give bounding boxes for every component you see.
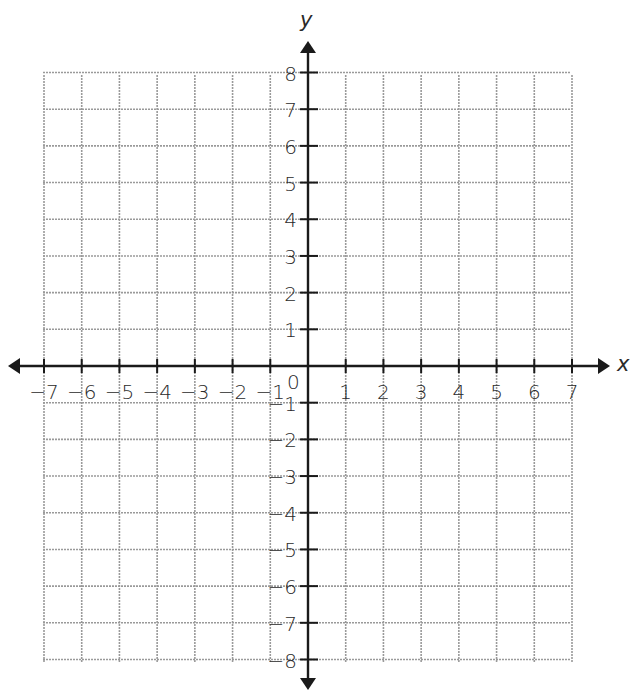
y-tick-label: 6 (284, 135, 297, 159)
x-tick-label: −5 (105, 380, 134, 404)
x-tick-label: −3 (180, 380, 209, 404)
y-tick-label: 3 (284, 245, 297, 269)
y-tick-label: 7 (284, 98, 297, 122)
y-tick-label: −5 (268, 538, 297, 562)
x-tick-label: 6 (528, 380, 541, 404)
x-tick-label: 1 (339, 380, 352, 404)
y-tick-label: −2 (268, 428, 297, 452)
x-tick-label: −7 (29, 380, 58, 404)
x-tick-label: −4 (142, 380, 171, 404)
coordinate-plane: −7−6−5−4−3−2−11234567 87654321−1−2−3−4−5… (0, 0, 632, 692)
x-axis-label: x (616, 352, 630, 376)
origin-label: 0 (287, 370, 300, 394)
x-tick-label: 7 (566, 380, 579, 404)
y-tick-label: 5 (284, 172, 297, 196)
y-axis-up-arrow-icon (300, 41, 316, 53)
x-axis-left-arrow-icon (8, 358, 20, 374)
y-tick-label: 4 (284, 208, 297, 232)
x-tick-label: 3 (415, 380, 428, 404)
x-tick-label: 2 (377, 380, 390, 404)
axes (8, 41, 610, 690)
y-tick-label: −6 (268, 575, 297, 599)
y-tick-label: −1 (268, 392, 297, 416)
y-tick-label: −4 (268, 502, 297, 526)
y-tick-label: 8 (284, 62, 297, 86)
y-axis-down-arrow-icon (300, 678, 316, 690)
x-axis-right-arrow-icon (598, 358, 610, 374)
x-tick-label: 4 (452, 380, 465, 404)
y-tick-label: 1 (284, 318, 297, 342)
y-tick-label: −3 (268, 465, 297, 489)
x-tick-label: 5 (490, 380, 503, 404)
y-axis-label: y (299, 8, 313, 32)
x-tick-label: −2 (218, 380, 247, 404)
y-tick-label: 2 (284, 282, 297, 306)
y-tick-label: −7 (268, 612, 297, 636)
y-tick-label: −8 (268, 649, 297, 673)
x-tick-label: −6 (67, 380, 96, 404)
